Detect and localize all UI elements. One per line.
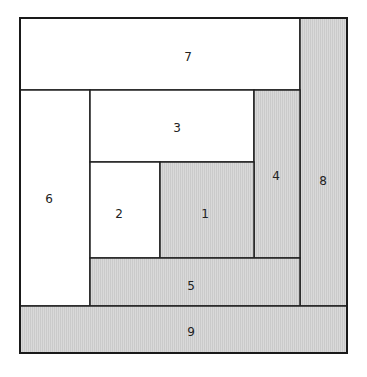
piece-1-label: 1 xyxy=(201,207,209,221)
piece-3-label: 3 xyxy=(173,121,181,135)
piece-4: 4 xyxy=(254,90,300,258)
piece-5-label: 5 xyxy=(187,279,195,293)
piece-1: 1 xyxy=(160,162,254,258)
piece-8: 8 xyxy=(300,18,347,306)
log-cabin-diagram: 7 8 6 3 4 2 1 5 9 xyxy=(0,0,367,377)
piece-2: 2 xyxy=(90,162,160,258)
piece-9-label: 9 xyxy=(187,325,195,339)
piece-5: 5 xyxy=(90,258,300,306)
piece-6-label: 6 xyxy=(45,192,53,206)
piece-7-label: 7 xyxy=(184,50,192,64)
piece-3: 3 xyxy=(90,90,254,162)
piece-8-label: 8 xyxy=(319,174,327,188)
piece-6: 6 xyxy=(20,90,90,306)
piece-2-label: 2 xyxy=(115,207,123,221)
piece-9: 9 xyxy=(20,306,347,353)
piece-4-label: 4 xyxy=(272,169,280,183)
piece-7: 7 xyxy=(20,18,300,90)
